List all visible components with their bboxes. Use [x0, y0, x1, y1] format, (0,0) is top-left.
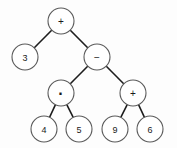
tree-edge: [71, 31, 88, 48]
tree-node-5: 5: [66, 116, 92, 142]
tree-node-4: 4: [31, 116, 57, 142]
tree-node-plus: +: [48, 8, 74, 34]
node-label: 4: [41, 125, 46, 135]
tree-node-times: ·: [48, 80, 74, 106]
tree-node-6: 6: [137, 116, 163, 142]
node-label: 5: [76, 125, 81, 135]
tree-edge: [121, 105, 127, 117]
node-label: 9: [112, 125, 117, 135]
tree-node-9: 9: [102, 116, 128, 142]
node-label: ·: [58, 85, 63, 102]
node-label: +: [130, 88, 136, 99]
node-label: 6: [147, 125, 152, 135]
tree-canvas: +3−·+4596: [0, 0, 177, 148]
node-label: −: [94, 52, 100, 63]
tree-edge: [35, 31, 52, 48]
tree-node-3: 3: [12, 44, 38, 70]
tree-nodes: +3−·+4596: [12, 8, 163, 142]
tree-edge: [67, 105, 73, 117]
node-label: 3: [22, 53, 27, 63]
expression-tree-figure: +3−·+4596: [0, 0, 177, 148]
tree-edge: [50, 105, 55, 117]
tree-node-plus: +: [120, 80, 146, 106]
tree-node-minus: −: [84, 44, 110, 70]
tree-edge: [71, 67, 88, 84]
tree-edge: [107, 67, 124, 84]
tree-edge: [139, 105, 144, 117]
node-label: +: [58, 16, 64, 27]
